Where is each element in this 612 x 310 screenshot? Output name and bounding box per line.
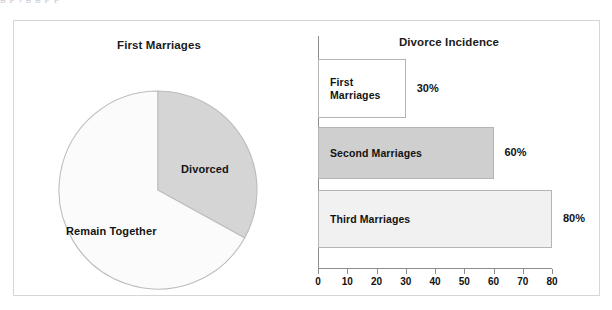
x-axis-tick xyxy=(552,269,553,274)
bar-second-marriages[interactable]: Second Marriages xyxy=(318,127,494,179)
bar-value-label: 60% xyxy=(505,146,527,158)
x-axis-tick xyxy=(435,269,436,274)
x-axis-tick xyxy=(464,269,465,274)
bar-third-marriages[interactable]: Third Marriages xyxy=(318,190,552,248)
bar-first-marriages[interactable]: First Marriages xyxy=(318,59,406,118)
figure-frame: First Marriages Divorced Remain Together… xyxy=(13,20,600,296)
x-axis-tick xyxy=(406,269,407,274)
x-axis-tick-label: 10 xyxy=(335,276,359,287)
x-axis-tick-label: 70 xyxy=(511,276,535,287)
bar-label: First Marriages xyxy=(319,76,381,102)
x-axis-tick-label: 20 xyxy=(365,276,389,287)
bar-label: Second Marriages xyxy=(319,147,422,160)
pie-chart-panel: First Marriages Divorced Remain Together xyxy=(14,21,304,297)
x-axis-tick xyxy=(523,269,524,274)
x-axis-tick-label: 60 xyxy=(482,276,506,287)
pie-chart-graphic xyxy=(52,84,264,296)
pie-chart-title: First Marriages xyxy=(14,39,304,51)
bar-value-label: 30% xyxy=(417,82,439,94)
x-axis-tick xyxy=(377,269,378,274)
clipped-scan-text: g p , g g p p xyxy=(0,0,612,3)
x-axis-tick-label: 80 xyxy=(540,276,564,287)
x-axis-tick-label: 0 xyxy=(306,276,330,287)
bar-chart-title: Divorce Incidence xyxy=(324,36,574,48)
bar-label: Third Marriages xyxy=(319,213,410,226)
bar-value-label: 80% xyxy=(563,212,585,224)
bar-chart-panel: Divorce Incidence 01020304050607080 Firs… xyxy=(304,21,601,297)
x-axis-tick xyxy=(494,269,495,274)
x-axis-tick-label: 30 xyxy=(394,276,418,287)
x-axis-tick xyxy=(318,269,319,274)
x-axis-tick xyxy=(347,269,348,274)
pie-label-divorced: Divorced xyxy=(181,163,229,175)
pie-label-remain-together: Remain Together xyxy=(66,225,157,237)
x-axis-tick-label: 40 xyxy=(423,276,447,287)
x-axis-tick-label: 50 xyxy=(452,276,476,287)
